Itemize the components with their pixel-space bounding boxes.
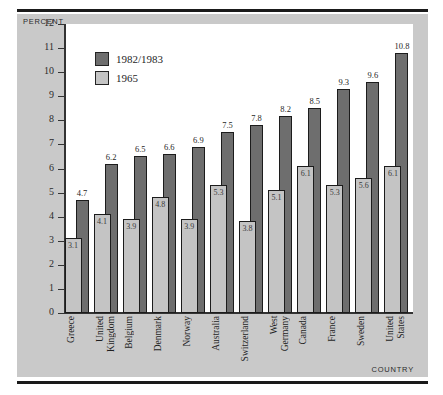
bar-value-label: 5.3	[330, 188, 340, 197]
bar-value-label: 4.7	[77, 188, 88, 198]
bar-value-label: 6.1	[301, 169, 311, 178]
bar-value-label: 5.3	[213, 188, 223, 197]
bar-1965[interactable]: 5.6	[355, 178, 372, 313]
bar-1965[interactable]: 3.8	[239, 221, 256, 313]
x-tick-label: Belgium	[124, 316, 135, 349]
bar-value-label: 4.1	[97, 217, 107, 226]
y-tick-label: 4	[49, 210, 54, 221]
x-tick-label: Canada	[298, 316, 309, 345]
bar-value-label: 6.9	[193, 135, 204, 145]
bar-group: 6.64.8	[151, 24, 180, 313]
bar-group: 7.55.3	[209, 24, 238, 313]
y-tick-label: 10	[44, 65, 54, 76]
bar-group: 9.65.6	[355, 24, 384, 313]
bar-group: 4.73.1	[64, 24, 93, 313]
bar-1965[interactable]: 3.9	[181, 219, 198, 313]
bar-1965[interactable]: 4.1	[94, 214, 111, 313]
bar-value-label: 7.8	[251, 113, 262, 123]
bar-group: 6.53.9	[122, 24, 151, 313]
y-tick-label: 7	[49, 137, 54, 148]
x-tick-label: Denmark	[153, 316, 164, 351]
x-tick-label: Greece	[66, 316, 77, 343]
bar-1965[interactable]: 4.8	[152, 197, 169, 313]
bar-group: 6.24.1	[93, 24, 122, 313]
bar-value-label: 6.2	[106, 152, 117, 162]
bar-1965[interactable]: 3.9	[123, 219, 140, 313]
chart-figure: PERCENT 0123456789101112 COUNTRY 1982/19…	[0, 0, 443, 395]
bar-value-label: 5.6	[359, 181, 369, 190]
bar-groups: 4.73.16.24.16.53.96.64.86.93.97.55.37.83…	[64, 24, 413, 313]
bar-value-label: 10.8	[395, 41, 410, 51]
x-tick-label: West Germany	[269, 316, 291, 351]
bar-value-label: 3.1	[68, 241, 78, 250]
x-tick-label: Sweden	[356, 316, 367, 346]
bar-1965[interactable]: 6.1	[297, 166, 314, 313]
y-tick-label: 5	[49, 186, 54, 197]
bar-1965[interactable]: 5.3	[326, 185, 343, 313]
bar-group: 7.83.8	[239, 24, 268, 313]
top-rule	[17, 9, 428, 12]
x-tick-label: France	[327, 316, 338, 342]
x-tick-label: Norway	[182, 316, 193, 347]
bar-1965[interactable]: 5.1	[268, 190, 285, 313]
y-tick-label: 2	[49, 258, 54, 269]
y-tick-label: 6	[49, 162, 54, 173]
bar-group: 9.35.3	[326, 24, 355, 313]
y-tick-label: 11	[44, 41, 54, 52]
bar-1965[interactable]: 6.1	[384, 166, 401, 313]
y-tick-label: 1	[49, 282, 54, 293]
bar-value-label: 8.5	[309, 96, 320, 106]
bar-value-label: 8.2	[280, 104, 291, 114]
y-tick-label: 8	[49, 113, 54, 124]
bar-group: 6.93.9	[180, 24, 209, 313]
x-tick-label: Switzerland	[240, 316, 251, 361]
bar-value-label: 5.1	[272, 193, 282, 202]
bar-value-label: 6.5	[135, 144, 146, 154]
bar-value-label: 9.6	[368, 70, 379, 80]
bar-value-label: 3.9	[126, 222, 136, 231]
chart-panel: PERCENT 0123456789101112 COUNTRY 1982/19…	[17, 14, 428, 377]
x-tick-label: Australia	[211, 316, 222, 351]
bar-value-label: 6.6	[164, 142, 175, 152]
x-tick-label: United Kingdom	[95, 316, 117, 352]
x-tick-labels: GreeceUnited KingdomBelgiumDenmarkNorway…	[64, 316, 413, 386]
bar-1965[interactable]: 3.1	[65, 238, 82, 313]
bar-group: 10.86.1	[384, 24, 413, 313]
x-tick-label: United States	[385, 316, 407, 342]
y-tick-label: 12	[44, 17, 54, 28]
bar-group: 8.56.1	[297, 24, 326, 313]
bar-value-label: 3.9	[184, 222, 194, 231]
bar-1965[interactable]: 5.3	[210, 185, 227, 313]
bar-value-label: 7.5	[222, 120, 233, 130]
bar-value-label: 6.1	[388, 169, 398, 178]
y-tick-label: 9	[49, 89, 54, 100]
bar-value-label: 3.8	[243, 224, 253, 233]
bar-value-label: 9.3	[338, 77, 349, 87]
bar-group: 8.25.1	[268, 24, 297, 313]
bar-value-label: 4.8	[155, 200, 165, 209]
y-tick-label: 0	[49, 306, 54, 317]
y-tick-label: 3	[49, 234, 54, 245]
